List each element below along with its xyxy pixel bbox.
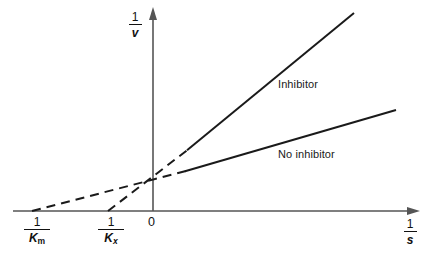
kx-intercept-numerator: 1 <box>91 216 131 229</box>
no-inhibitor-dashed-segment <box>32 171 188 212</box>
y-axis-arrowhead <box>149 7 157 20</box>
inhibitor-dashed-segment <box>108 148 190 211</box>
km-intercept-denominator: Km <box>17 230 57 244</box>
plot-canvas <box>0 0 431 258</box>
x-axis-label-numerator: 1 <box>398 218 422 231</box>
origin-label: 0 <box>148 216 155 229</box>
no-inhibitor-solid-segment <box>185 110 396 171</box>
km-intercept-label: 1 Km <box>17 216 57 244</box>
series-no-inhibitor <box>32 110 396 211</box>
km-intercept-numerator: 1 <box>17 216 57 229</box>
series-label-inhibitor: Inhibitor <box>278 79 318 90</box>
x-axis-arrowhead <box>407 207 420 215</box>
series-label-no-inhibitor: No inhibitor <box>278 149 335 160</box>
y-axis-label: 1 v <box>123 11 147 39</box>
y-axis-label-numerator: 1 <box>123 11 147 24</box>
kx-intercept-denominator: Kx <box>91 230 131 244</box>
kx-intercept-label: 1 Kx <box>91 216 131 244</box>
x-axis-label-denominator: s <box>398 232 422 246</box>
x-axis-label: 1 s <box>398 218 422 246</box>
x-axis <box>13 207 420 215</box>
lineweaver-burk-figure: 1 v 1 s 0 1 Km 1 Kx Inhibitor No inhibit… <box>0 0 431 258</box>
series-inhibitor <box>108 13 354 211</box>
y-axis-label-denominator: v <box>123 25 147 39</box>
